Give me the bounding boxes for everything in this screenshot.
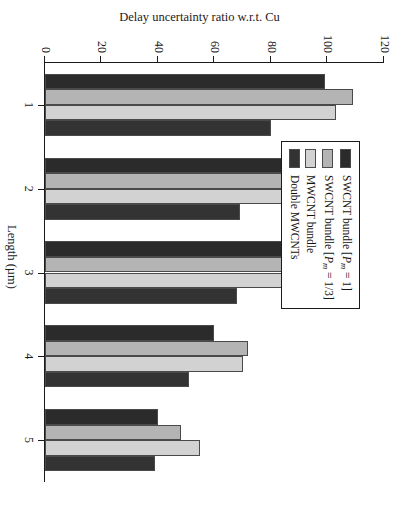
bar	[45, 440, 200, 456]
legend-item: SWCNT bundle [Pm = 1]	[338, 149, 353, 300]
y-tick-label: 40	[151, 41, 166, 53]
y-tick-label: 20	[94, 41, 109, 53]
legend-swatch	[289, 149, 300, 168]
legend-label: Double MWCNTs	[288, 175, 301, 259]
x-tick-mark	[38, 189, 45, 190]
bar	[45, 74, 325, 90]
x-tick-label: 5	[21, 437, 36, 443]
bar	[45, 372, 189, 388]
bar	[45, 356, 243, 372]
y-tick-label: 120	[377, 35, 392, 53]
y-tick-label: 0	[38, 47, 53, 53]
x-tick-mark	[38, 356, 45, 357]
bar	[45, 341, 248, 357]
y-tick-label: 100	[320, 35, 335, 53]
bar	[45, 120, 271, 136]
bar	[45, 105, 336, 121]
bar	[45, 89, 353, 105]
plot-area: 020406080100120 12345 SWCNT bundle [Pm =…	[44, 62, 384, 482]
x-tick-mark	[38, 440, 45, 441]
y-tick-mark	[101, 56, 102, 63]
bar	[45, 425, 181, 441]
x-tick-mark	[38, 273, 45, 274]
legend-item: SWCNT bundle [Pm = 1/3]	[320, 149, 335, 300]
y-tick-label: 80	[264, 41, 279, 53]
chart-figure: Delay uncertainty ratio w.r.t. Cu 020406…	[0, 0, 400, 514]
bar	[45, 273, 311, 289]
y-tick-mark	[157, 56, 158, 63]
bar	[45, 409, 158, 425]
y-tick-label: 60	[207, 41, 222, 53]
bar	[45, 189, 316, 205]
y-tick-mark	[214, 56, 215, 63]
x-tick-label: 3	[21, 270, 36, 276]
x-tick-mark	[38, 105, 45, 106]
x-tick-label: 2	[21, 186, 36, 192]
bar	[45, 204, 240, 220]
y-axis-label: Delay uncertainty ratio w.r.t. Cu	[0, 8, 400, 26]
y-axis-label-text: Delay uncertainty ratio w.r.t. Cu	[120, 10, 281, 25]
legend-label: MWCNT bundle	[304, 175, 317, 253]
legend-item: Double MWCNTs	[288, 149, 301, 300]
legend-label: SWCNT bundle [Pm = 1/3]	[320, 175, 335, 300]
y-tick-mark	[270, 56, 271, 63]
bar	[45, 325, 215, 341]
bar	[45, 288, 237, 304]
x-axis-label: Length (µm)	[4, 0, 19, 514]
bar	[45, 241, 291, 257]
y-tick-mark	[327, 56, 328, 63]
legend-swatch	[322, 149, 333, 168]
y-tick-mark	[44, 56, 45, 63]
y-tick-mark	[383, 56, 384, 63]
x-tick-label: 1	[21, 102, 36, 108]
rotated-figure: Delay uncertainty ratio w.r.t. Cu 020406…	[0, 0, 400, 514]
legend-item: MWCNT bundle	[304, 149, 317, 300]
legend-swatch	[305, 149, 316, 168]
bar	[45, 456, 155, 472]
bar	[45, 257, 316, 273]
x-tick-label: 4	[21, 353, 36, 359]
legend-swatch	[340, 149, 351, 168]
chart-legend: SWCNT bundle [Pm = 1]SWCNT bundle [Pm = …	[281, 141, 360, 309]
legend-label: SWCNT bundle [Pm = 1]	[338, 175, 353, 291]
x-axis-label-text: Length (µm)	[5, 225, 19, 289]
